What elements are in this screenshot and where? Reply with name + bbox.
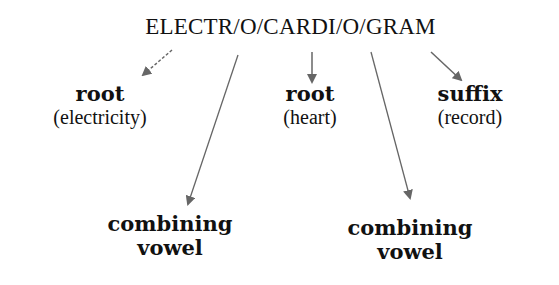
meaning-label: (record) [405,106,535,129]
term-line2: vowel [95,236,245,260]
meaning-label: (electricity) [25,106,175,129]
term-line2: vowel [335,240,485,264]
arrow-to-root-electricity [143,50,172,75]
term-label: root [25,82,175,106]
part-root-electricity: root (electricity) [25,82,175,129]
term-label: suffix [405,82,535,106]
part-suffix-record: suffix (record) [405,82,535,129]
arrow-to-combining-vowel-1 [188,55,238,204]
term-line1: combining [335,216,485,240]
part-combining-vowel-2: combining vowel [335,216,485,264]
term-line1: combining [95,212,245,236]
arrow-to-suffix [431,52,461,80]
term-label: root [245,82,375,106]
meaning-label: (heart) [245,106,375,129]
part-combining-vowel-1: combining vowel [95,212,245,260]
part-root-heart: root (heart) [245,82,375,129]
